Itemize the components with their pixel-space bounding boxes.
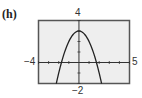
plot-frame bbox=[39, 21, 130, 84]
graph-window bbox=[0, 0, 142, 98]
